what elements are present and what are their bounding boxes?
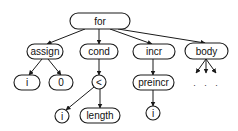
- node-label: <: [96, 77, 102, 88]
- node-cond: cond: [80, 44, 118, 59]
- node-preincr-i: i: [146, 106, 160, 120]
- node-label: i: [26, 77, 28, 88]
- edge-assign-i: [29, 59, 42, 75]
- node-for: for: [70, 13, 130, 29]
- node-label: for: [94, 16, 106, 27]
- edge-assign-0: [48, 59, 61, 75]
- node-assign: assign: [27, 44, 63, 59]
- body-ellipsis: . . .: [193, 78, 221, 88]
- node-label: i: [61, 111, 63, 122]
- node-incr: incr: [133, 44, 175, 59]
- node-label: 0: [58, 77, 64, 88]
- node-label: preincr: [138, 77, 169, 88]
- node-label: body: [196, 46, 218, 57]
- node-label: assign: [31, 46, 60, 57]
- edge-body-child-3: [206, 59, 216, 73]
- node-label: cond: [88, 46, 110, 57]
- node-assign-0: 0: [49, 75, 73, 90]
- node-length: length: [80, 108, 120, 123]
- node-label: incr: [146, 46, 163, 57]
- node-preincr: preincr: [133, 75, 174, 90]
- ast-diagram: for assign cond incr body i 0 < preincr …: [0, 0, 238, 131]
- edges: [29, 29, 216, 110]
- edge-body-child-1: [196, 59, 206, 73]
- node-label: length: [86, 110, 113, 121]
- edge-for-assign: [47, 29, 85, 44]
- node-body: body: [185, 43, 228, 59]
- node-label: i: [152, 108, 154, 119]
- edge-lt-i: [66, 87, 94, 110]
- node-assign-i: i: [14, 75, 40, 90]
- node-lt-i: i: [55, 109, 69, 123]
- node-less-than: <: [92, 75, 106, 89]
